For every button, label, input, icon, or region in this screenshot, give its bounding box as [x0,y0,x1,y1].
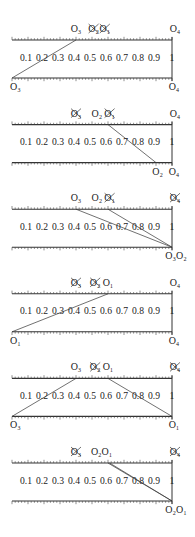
scale-number: 0.2 [36,475,48,486]
scale-number: 0.8 [132,52,144,63]
scale-number: 0.5 [84,52,96,63]
label: O₄ [170,277,181,288]
label: O₃ [71,361,82,372]
scale-number: 0.1 [20,52,32,63]
scale-number: 0.3 [52,136,64,147]
label: O₃O₂ [165,250,186,261]
scale-number: 1 [170,221,175,232]
label: O₂ [91,108,102,119]
scale-number: 0.6 [100,475,112,486]
label: O₄ [170,23,181,34]
scale-number: 0.7 [116,52,128,63]
scale-number: 0.6 [100,136,112,147]
label: O₁ [10,335,21,346]
scale-number: 0.4 [68,390,80,401]
label: O₂ [91,192,102,203]
scale-number: 0.2 [36,305,48,316]
scale-number: 0.7 [116,221,128,232]
panel-5: 0.10.20.30.40.50.60.70.80.91O₃O₂O₁O₄O₃O₁ [10,361,181,430]
label: O₃ [71,23,82,34]
scale-number: 0.1 [20,305,32,316]
scale-number: 0.4 [68,136,80,147]
label: O₂O₁ [91,446,112,457]
scale-number: 0.2 [36,136,48,147]
scale-number: 0.7 [116,475,128,486]
scale-number: 0.9 [148,136,160,147]
scale-number: 0.9 [148,390,160,401]
label: O₁ [103,277,114,288]
scale-number: 0.5 [84,136,96,147]
scale-number: 1 [170,52,175,63]
scale-number: 0.2 [36,390,48,401]
scale-number: 0.1 [20,221,32,232]
scale-number: 0.4 [68,475,80,486]
label: O₂O₁ [165,504,186,515]
label: O₁ [103,361,114,372]
scale-number: 0.2 [36,52,48,63]
scale-number: 0.5 [84,475,96,486]
label: O₄ [170,108,181,119]
label: O₃ [71,192,82,203]
scale-number: 0.4 [68,221,80,232]
panel-4: 0.10.20.30.40.50.60.70.80.91O₃O₂O₁O₄O₁O₄ [10,277,181,346]
scale-number: 0.6 [100,52,112,63]
scale-number: 0.9 [148,221,160,232]
scale-number: 0.6 [100,305,112,316]
scale-number: 0.2 [36,221,48,232]
scale-number: 0.3 [52,221,64,232]
label: O₁ [169,419,180,430]
scale-number: 0.6 [100,221,112,232]
scale-number: 0.5 [84,390,96,401]
panel-6: 0.10.20.30.40.50.60.70.80.91O₃O₂O₁O₄O₂O₁ [12,446,187,515]
scale-number: 0.5 [84,221,96,232]
scale-number: 1 [170,305,175,316]
label: O₃ [10,419,21,430]
label: O₄ [169,166,180,177]
scale-number: 0.8 [132,305,144,316]
scale-number: 0.8 [132,221,144,232]
scale-number: 0.9 [148,475,160,486]
scale-number: 1 [170,136,175,147]
scale-number: 0.7 [116,390,128,401]
scale-number: 0.9 [148,52,160,63]
scale-number: 0.1 [20,390,32,401]
label: O₄ [169,335,180,346]
scale-number: 0.3 [52,305,64,316]
scale-number: 0.4 [68,52,80,63]
label: O₂ [152,166,163,177]
scale-number: 0.1 [20,136,32,147]
ruler-diagram: 0.10.20.30.40.50.60.70.80.91O₃O₂O₁O₄O₃O₄… [0,0,195,537]
panel-2: 0.10.20.30.40.50.60.70.80.91O₃O₂O₁O₄O₂O₄ [12,108,181,177]
scale-number: 0.6 [100,390,112,401]
scale-number: 0.8 [132,390,144,401]
panel-1: 0.10.20.30.40.50.60.70.80.91O₃O₂O₁O₄O₃O₄ [10,23,181,92]
label: O₄ [169,81,180,92]
panel-3: 0.10.20.30.40.50.60.70.80.91O₃O₂O₁O₄O₃O₂ [12,192,187,261]
scale-number: 0.3 [52,475,64,486]
scale-number: 1 [170,390,175,401]
scale-number: 0.1 [20,475,32,486]
scale-number: 0.7 [116,305,128,316]
scale-number: 1 [170,475,175,486]
scale-number: 0.7 [116,136,128,147]
scale-number: 0.9 [148,305,160,316]
scale-number: 0.5 [84,305,96,316]
label: O₃ [10,81,21,92]
